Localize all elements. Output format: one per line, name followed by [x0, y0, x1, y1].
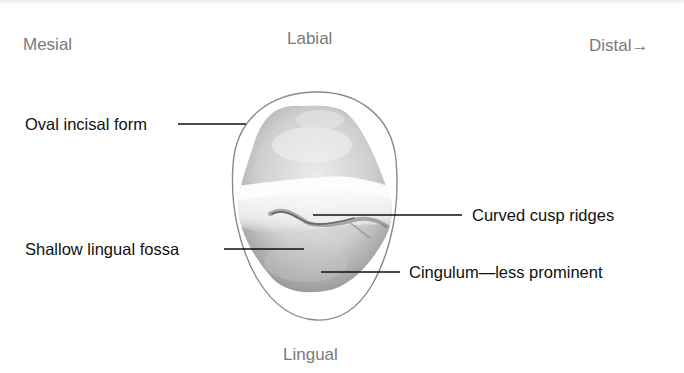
label-cingulum: Cingulum—less prominent [409, 264, 603, 281]
label-curved-cusp-ridges: Curved cusp ridges [472, 207, 614, 224]
tooth-diagram [0, 0, 684, 373]
label-shallow-lingual-fossa: Shallow lingual fossa [25, 241, 179, 258]
tooth-crown [230, 100, 400, 300]
label-oval-incisal-form: Oval incisal form [25, 116, 147, 133]
